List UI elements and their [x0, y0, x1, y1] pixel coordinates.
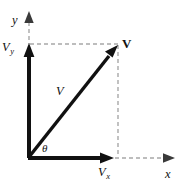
- vy-component-label: Vy: [2, 40, 14, 56]
- angle-theta-label: θ: [42, 142, 48, 154]
- vector-bold-label: V: [122, 36, 132, 51]
- x-axis-label: x: [164, 167, 171, 181]
- vx-label-subscript: x: [105, 171, 110, 181]
- vector-diagram-figure: y x V V Vy Vx θ: [0, 0, 186, 182]
- y-axis-label: y: [10, 13, 18, 27]
- resultant-vector-arrowhead-icon: [105, 45, 118, 58]
- vector-diagram-canvas: y x V V Vy Vx θ: [0, 0, 186, 182]
- resultant-vector-line: [29, 56, 109, 157]
- vy-arrowhead-icon: [24, 43, 35, 57]
- vx-component-label: Vx: [98, 165, 110, 181]
- x-axis-arrowhead-icon: [163, 153, 175, 162]
- y-axis-arrowhead-icon: [24, 11, 33, 23]
- vy-label-subscript: y: [9, 46, 14, 56]
- vector-magnitude-label: V: [56, 84, 65, 98]
- vx-arrowhead-icon: [100, 153, 114, 164]
